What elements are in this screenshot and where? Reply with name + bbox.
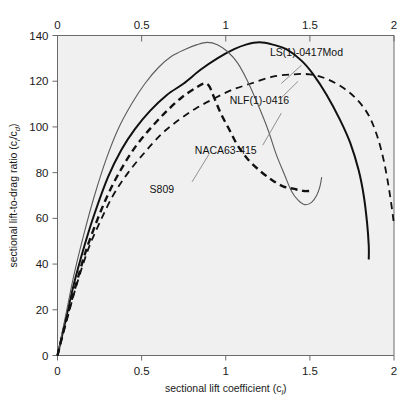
x-tick-label: 1 <box>223 365 229 377</box>
y-tick-label: 0 <box>42 350 48 362</box>
top-x-tick-label: 0.5 <box>134 19 150 31</box>
lift-to-drag-chart: 00.511.5200.511.52020406080100120140LS(1… <box>0 0 417 406</box>
x-tick-label: 0.5 <box>134 365 150 377</box>
y-tick-label: 80 <box>36 167 49 179</box>
top-x-tick-label: 1 <box>223 19 229 31</box>
y-axis-title: sectional lift-to-drag ratio (cl/cd) <box>7 123 22 267</box>
series-label-s809: S809 <box>150 183 175 195</box>
y-tick-label: 100 <box>29 121 48 133</box>
top-x-tick-label: 2 <box>391 19 397 31</box>
series-label-nlf-1-0416: NLF(1)-0416 <box>230 94 290 106</box>
top-x-tick-label: 1.5 <box>302 19 318 31</box>
y-tick-label: 120 <box>29 75 48 87</box>
series-label-ls-1-0417mod: LS(1)-0417Mod <box>270 46 343 58</box>
series-label-naca63-415: NACA63-415 <box>195 144 257 156</box>
y-tick-label: 140 <box>29 30 48 42</box>
plot-background <box>58 36 395 356</box>
y-tick-label: 40 <box>36 258 49 270</box>
top-x-tick-label: 0 <box>54 19 60 31</box>
x-axis-title: sectional lift coefficient (cl) <box>165 382 287 397</box>
x-tick-label: 0 <box>54 365 60 377</box>
chart-container: 00.511.5200.511.52020406080100120140LS(1… <box>0 0 417 406</box>
y-tick-label: 60 <box>36 212 49 224</box>
x-tick-label: 2 <box>391 365 397 377</box>
x-tick-label: 1.5 <box>302 365 318 377</box>
y-tick-label: 20 <box>36 304 49 316</box>
